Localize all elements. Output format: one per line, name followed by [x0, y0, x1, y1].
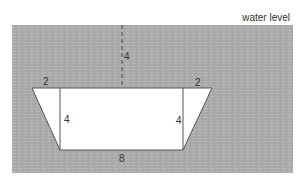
depth-label: 4: [124, 51, 130, 62]
right-height-label: 4: [176, 115, 182, 126]
left-height-label: 4: [64, 114, 70, 125]
dam-diagram: 4 2 2 4 4 8: [0, 0, 300, 180]
trapezoid-shape: [32, 88, 212, 150]
top-right-overhang-label: 2: [195, 77, 201, 88]
top-left-overhang-label: 2: [43, 76, 49, 87]
bottom-width-label: 8: [119, 153, 125, 164]
